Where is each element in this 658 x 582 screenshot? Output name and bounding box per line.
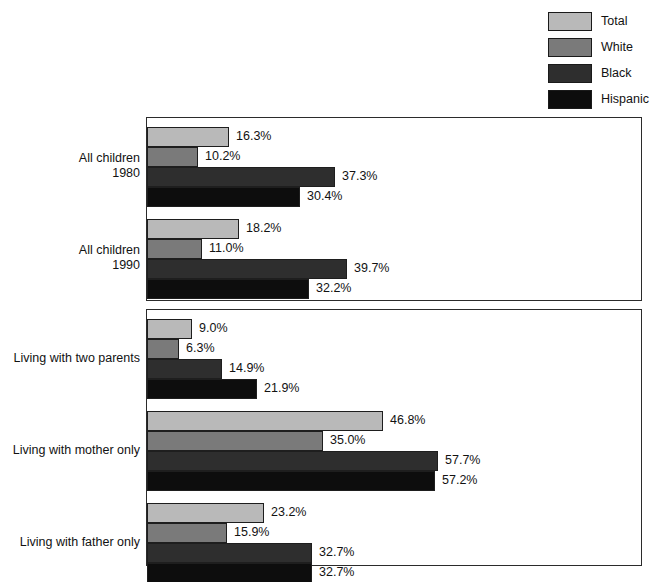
bar-value-label: 21.9% [264, 381, 299, 395]
category-label-line: 1990 [0, 258, 140, 273]
bar-row: 32.2% [147, 279, 641, 299]
category-labels-top: All children1980All children1990 [0, 117, 140, 301]
bar-value-label: 35.0% [330, 433, 365, 447]
bar-value-label: 10.2% [205, 149, 240, 163]
bar-row: 15.9% [147, 523, 641, 543]
panel-living-arrangement: 9.0%6.3%14.9%21.9%46.8%35.0%57.7%57.2%23… [146, 309, 642, 566]
bar-white [147, 523, 227, 543]
bar-hispanic [147, 563, 312, 582]
bar-value-label: 32.2% [316, 281, 351, 295]
category-label: Living with mother only [0, 443, 140, 458]
category-label: Living with father only [0, 535, 140, 550]
legend-label: White [601, 40, 633, 54]
bar-row: 21.9% [147, 379, 641, 399]
bar-row: 18.2% [147, 219, 641, 239]
category-label-line: Living with two parents [0, 351, 140, 366]
bar-total [147, 127, 229, 147]
bar-value-label: 18.2% [246, 221, 281, 235]
legend-item: Total [548, 10, 658, 32]
category-label-line: 1980 [0, 166, 140, 181]
bar-value-label: 16.3% [236, 129, 271, 143]
bar-row: 6.3% [147, 339, 641, 359]
bar-hispanic [147, 279, 309, 299]
bar-value-label: 15.9% [234, 525, 269, 539]
bar-total [147, 319, 192, 339]
bar-row: 32.7% [147, 543, 641, 563]
bar-value-label: 14.9% [229, 361, 264, 375]
bar-row: 23.2% [147, 503, 641, 523]
bar-value-label: 30.4% [307, 189, 342, 203]
bar-white [147, 339, 179, 359]
bar-black [147, 451, 438, 471]
bar-value-label: 11.0% [209, 241, 244, 255]
legend-swatch-total [548, 12, 592, 31]
bar-row: 46.8% [147, 411, 641, 431]
bar-row: 57.2% [147, 471, 641, 491]
legend-swatch-white [548, 38, 592, 57]
bar-value-label: 23.2% [271, 505, 306, 519]
category-label-line: All children [0, 151, 140, 166]
category-label: Living with two parents [0, 351, 140, 366]
bar-black [147, 543, 312, 563]
panel-all-children: 16.3%10.2%37.3%30.4%18.2%11.0%39.7%32.2% [146, 117, 642, 301]
legend-label: Black [601, 66, 632, 80]
chart-page: TotalWhiteBlackHispanic All children1980… [0, 0, 658, 582]
bar-row: 10.2% [147, 147, 641, 167]
bar-row: 14.9% [147, 359, 641, 379]
category-label-line: All children [0, 243, 140, 258]
category-label: All children1980 [0, 151, 140, 181]
bar-total [147, 503, 264, 523]
category-label: All children1990 [0, 243, 140, 273]
legend-swatch-black [548, 64, 592, 83]
bar-row: 32.7% [147, 563, 641, 582]
bar-hispanic [147, 187, 300, 207]
bar-value-label: 57.7% [445, 453, 480, 467]
legend-label: Hispanic [601, 92, 649, 106]
bar-value-label: 57.2% [442, 473, 477, 487]
bar-value-label: 9.0% [199, 321, 228, 335]
legend: TotalWhiteBlackHispanic [548, 10, 658, 114]
legend-label: Total [601, 14, 627, 28]
bar-white [147, 147, 198, 167]
bar-row: 16.3% [147, 127, 641, 147]
bar-total [147, 411, 383, 431]
bar-black [147, 167, 335, 187]
category-labels-bottom: Living with two parentsLiving with mothe… [0, 309, 140, 566]
category-label-line: Living with mother only [0, 443, 140, 458]
bar-row: 35.0% [147, 431, 641, 451]
bar-black [147, 359, 222, 379]
legend-item: Black [548, 62, 658, 84]
bar-value-label: 6.3% [186, 341, 215, 355]
bar-value-label: 32.7% [319, 565, 354, 579]
bar-value-label: 32.7% [319, 545, 354, 559]
bar-black [147, 259, 347, 279]
bar-white [147, 239, 202, 259]
category-label-line: Living with father only [0, 535, 140, 550]
legend-item: Hispanic [548, 88, 658, 110]
bar-value-label: 37.3% [342, 169, 377, 183]
legend-swatch-hispanic [548, 90, 592, 109]
bar-row: 57.7% [147, 451, 641, 471]
bar-row: 9.0% [147, 319, 641, 339]
bar-value-label: 46.8% [390, 413, 425, 427]
bar-total [147, 219, 239, 239]
bar-white [147, 431, 323, 451]
legend-item: White [548, 36, 658, 58]
bar-hispanic [147, 471, 435, 491]
bar-row: 11.0% [147, 239, 641, 259]
bar-row: 37.3% [147, 167, 641, 187]
bar-row: 39.7% [147, 259, 641, 279]
bar-row: 30.4% [147, 187, 641, 207]
bar-value-label: 39.7% [354, 261, 389, 275]
bar-hispanic [147, 379, 257, 399]
